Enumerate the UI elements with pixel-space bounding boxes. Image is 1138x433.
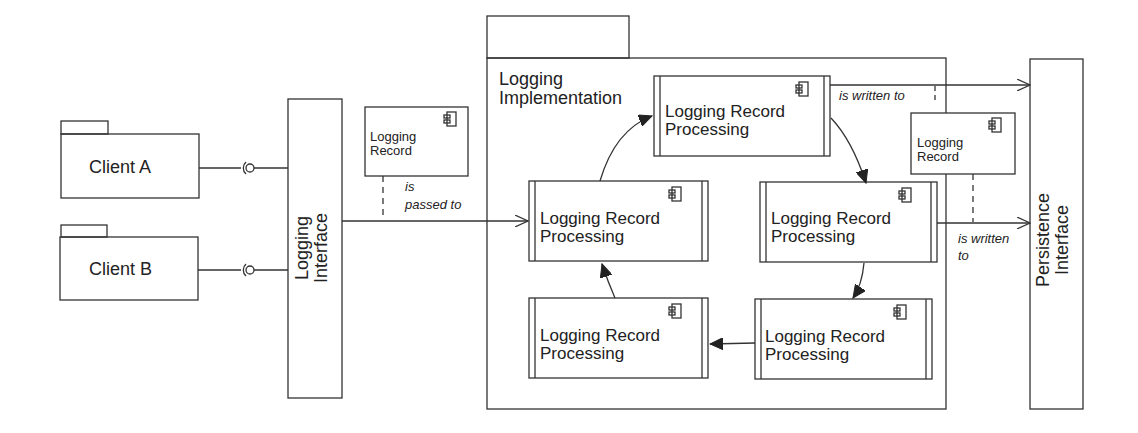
processing-left-label: Logging Record Processing (540, 210, 660, 246)
flow-arrow-right-to-bottomright (853, 263, 864, 298)
persistence-interface-label: Persistence Interface (1034, 180, 1078, 300)
processing-bottom-left-label: Logging Record Processing (540, 327, 660, 363)
flow-arrow-top-to-right (831, 118, 866, 183)
processing-bottom-right-label: Logging Record Processing (765, 328, 885, 364)
processing-top-label: Logging Record Processing (665, 103, 785, 139)
implementation-package-label: Logging Implementation (499, 70, 622, 108)
flow-arrow-bottomleft-to-left (602, 264, 615, 298)
flow-arrow-bottomright-to-bottomleft (710, 343, 755, 344)
required-interface-b (198, 264, 288, 276)
passed-to-label: is passed to (405, 180, 461, 211)
logging-record-note-1-label: Logging Record (370, 130, 416, 157)
processing-right-label: Logging Record Processing (771, 210, 891, 246)
logging-record-note-2-label: Logging Record (917, 136, 963, 163)
logging-record-note-2 (911, 113, 1015, 222)
flow-arrow-left-to-top (600, 116, 652, 181)
required-interface-a (199, 162, 288, 174)
written-to-top-label: is written to (839, 89, 905, 103)
client-b-label: Client B (89, 260, 152, 279)
client-a-label: Client A (89, 158, 151, 177)
component-icon (444, 112, 456, 126)
logging-interface-label: Logging Interface (293, 188, 337, 308)
written-to-bottom-label: is written to (958, 232, 1009, 262)
